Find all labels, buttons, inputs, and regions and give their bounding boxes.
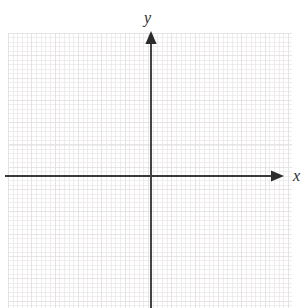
y-axis-label: y bbox=[144, 10, 151, 26]
graph-paper-grid bbox=[8, 33, 292, 308]
coordinate-plane-figure: y x bbox=[0, 0, 308, 308]
x-axis-label: x bbox=[293, 168, 300, 184]
